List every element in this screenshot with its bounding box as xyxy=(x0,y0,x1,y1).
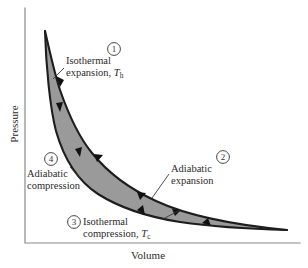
step-label-1-line2: expansion, Th xyxy=(66,67,123,79)
step-label-1-text: expansion, xyxy=(66,67,114,78)
step-label-2-line1: Adiabatic xyxy=(171,163,214,175)
step-label-3-text: compression, xyxy=(83,228,141,239)
step-label-3-line1: Isothermal xyxy=(83,216,151,228)
step-label-1-symbol: T xyxy=(114,67,120,78)
step-number-3: 3 xyxy=(67,215,81,229)
x-axis-label: Volume xyxy=(131,249,165,261)
step-label-adiabatic-expansion: Adiabatic expansion xyxy=(171,163,214,187)
step-number-2: 2 xyxy=(216,150,230,164)
step-label-1-subscript: h xyxy=(120,71,124,80)
carnot-cycle-figure: 1 2 3 4 Isothermal expansion, Th Adiabat… xyxy=(0,0,308,268)
step-label-2-line2: expansion xyxy=(171,175,214,187)
diagram-canvas xyxy=(0,0,308,268)
step-label-4-line2: compression xyxy=(27,180,80,192)
y-axis-label: Pressure xyxy=(8,96,20,152)
step-label-3-subscript: c xyxy=(147,232,150,241)
step-label-4-line1: Adiabatic xyxy=(27,168,80,180)
step-label-adiabatic-compression: Adiabatic compression xyxy=(27,168,80,192)
leader-line-step-2 xyxy=(152,174,169,198)
step-label-isothermal-compression: Isothermal compression, Tc xyxy=(83,216,151,240)
step-number-4: 4 xyxy=(44,152,58,166)
step-number-1: 1 xyxy=(107,42,121,56)
step-label-isothermal-expansion: Isothermal expansion, Th xyxy=(66,55,123,79)
step-label-3-line2: compression, Tc xyxy=(83,228,151,240)
step-label-1-line1: Isothermal xyxy=(66,55,123,67)
